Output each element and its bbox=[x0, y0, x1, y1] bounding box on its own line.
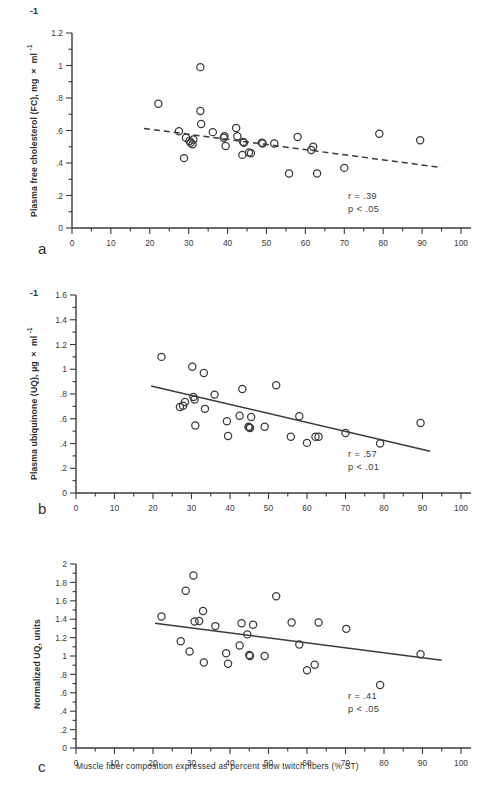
data-point bbox=[417, 419, 424, 426]
panel-a-stat-r: r = .39 bbox=[348, 190, 379, 203]
y-tick-label: 1.4 bbox=[55, 614, 67, 624]
x-tick-label: 100 bbox=[454, 503, 468, 513]
data-point bbox=[248, 413, 255, 420]
y-tick-label: .2 bbox=[60, 463, 67, 473]
data-point bbox=[180, 155, 187, 162]
y-tick-label: .6 bbox=[56, 126, 63, 136]
x-tick-label: 20 bbox=[148, 503, 158, 513]
y-tick-label: .4 bbox=[56, 158, 63, 168]
y-tick-label: 0 bbox=[62, 743, 67, 753]
data-point bbox=[377, 681, 384, 688]
panel-a-stat-p: p < .05 bbox=[348, 203, 379, 216]
x-tick-label: 60 bbox=[302, 503, 312, 513]
panel-a-plot-area: 01020304050607080901000.2.4.6.811.2 bbox=[0, 0, 484, 262]
data-point bbox=[250, 621, 257, 628]
data-point bbox=[211, 391, 218, 398]
panel-a-statistics: r = .39 p < .05 bbox=[348, 190, 379, 216]
data-point bbox=[287, 433, 294, 440]
data-point bbox=[198, 120, 205, 127]
x-tick-label: 40 bbox=[225, 503, 235, 513]
data-point bbox=[377, 440, 384, 447]
panel-c-statistics: r = .41 p < .05 bbox=[348, 690, 379, 716]
data-point bbox=[175, 128, 182, 135]
data-point bbox=[201, 405, 208, 412]
y-tick-label: 1.6 bbox=[55, 596, 67, 606]
x-tick-label: 100 bbox=[454, 238, 468, 248]
data-point bbox=[182, 587, 189, 594]
x-tick-label: 80 bbox=[379, 503, 389, 513]
panel-b-stat-p: p < .01 bbox=[348, 461, 379, 474]
y-tick-label: 1.2 bbox=[55, 340, 67, 350]
panel-b-plot-area: 01020304050607080901000.2.4.6.811.21.41.… bbox=[0, 262, 484, 524]
data-point bbox=[224, 432, 231, 439]
data-point bbox=[212, 623, 219, 630]
x-tick-label: 70 bbox=[341, 503, 351, 513]
data-point bbox=[197, 107, 204, 114]
scatter-figure: -1 Plasma free cholesterol (FC), mg × ml… bbox=[0, 0, 484, 786]
data-point bbox=[238, 620, 245, 627]
x-tick-label: 90 bbox=[418, 503, 428, 513]
x-tick-label: 80 bbox=[379, 758, 389, 768]
x-tick-label: 0 bbox=[74, 503, 79, 513]
panel-b-letter: b bbox=[38, 500, 46, 517]
panel-c-stat-p: p < .05 bbox=[348, 703, 379, 716]
regression-line bbox=[144, 128, 442, 167]
panel-a-letter: a bbox=[38, 240, 46, 257]
regression-line bbox=[155, 623, 442, 660]
data-point bbox=[158, 613, 165, 620]
data-point bbox=[223, 418, 230, 425]
y-tick-label: .8 bbox=[60, 670, 67, 680]
y-tick-label: 0 bbox=[58, 223, 63, 233]
y-tick-label: 2 bbox=[62, 559, 67, 569]
y-tick-label: 1.6 bbox=[55, 290, 67, 300]
y-tick-label: 0 bbox=[62, 488, 67, 498]
data-point bbox=[303, 439, 310, 446]
panel-c: Normalized UQ, units 0102030405060708090… bbox=[0, 524, 484, 786]
y-tick-label: 1 bbox=[62, 364, 67, 374]
data-point bbox=[209, 129, 216, 136]
x-tick-label: 40 bbox=[223, 238, 233, 248]
data-point bbox=[294, 133, 301, 140]
y-tick-label: 1 bbox=[62, 651, 67, 661]
x-tick-label: 50 bbox=[264, 503, 274, 513]
data-point bbox=[343, 625, 350, 632]
y-tick-label: .2 bbox=[56, 191, 63, 201]
data-point bbox=[197, 64, 204, 71]
data-point bbox=[234, 133, 241, 140]
data-point bbox=[236, 642, 243, 649]
y-tick-label: 1.8 bbox=[55, 578, 67, 588]
x-tick-label: 50 bbox=[262, 238, 272, 248]
data-point bbox=[288, 619, 295, 626]
data-point bbox=[233, 124, 240, 131]
data-point bbox=[200, 369, 207, 376]
y-tick-label: .4 bbox=[60, 706, 67, 716]
data-point bbox=[342, 429, 349, 436]
y-tick-label: .2 bbox=[60, 725, 67, 735]
data-point bbox=[239, 385, 246, 392]
data-point bbox=[417, 137, 424, 144]
panel-b-statistics: r = .57 p < .01 bbox=[348, 448, 379, 474]
data-point bbox=[199, 607, 206, 614]
x-tick-label: 60 bbox=[301, 238, 311, 248]
x-tick-label: 10 bbox=[106, 238, 116, 248]
data-point bbox=[273, 382, 280, 389]
data-point bbox=[341, 164, 348, 171]
data-point bbox=[311, 661, 318, 668]
panel-b-stat-r: r = .57 bbox=[348, 448, 379, 461]
data-point bbox=[315, 619, 322, 626]
panel-a: -1 Plasma free cholesterol (FC), mg × ml… bbox=[0, 0, 484, 262]
data-point bbox=[200, 659, 207, 666]
data-point bbox=[177, 638, 184, 645]
data-point bbox=[186, 648, 193, 655]
y-tick-label: 1.2 bbox=[51, 28, 63, 38]
panel-b: -1 Plasma ubiquinone (UQ), µg × ml -1 01… bbox=[0, 262, 484, 524]
x-tick-label: 80 bbox=[379, 238, 389, 248]
data-point bbox=[296, 413, 303, 420]
y-tick-label: .6 bbox=[60, 688, 67, 698]
y-tick-label: .8 bbox=[56, 93, 63, 103]
x-tick-label: 90 bbox=[417, 238, 427, 248]
data-point bbox=[273, 593, 280, 600]
data-point bbox=[190, 572, 197, 579]
x-tick-label: 20 bbox=[145, 238, 155, 248]
data-point bbox=[224, 660, 231, 667]
